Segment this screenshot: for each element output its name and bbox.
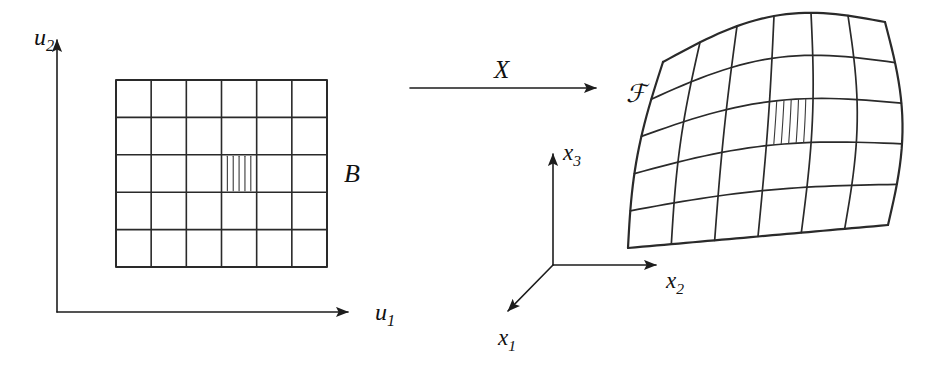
hatch-line bbox=[796, 100, 798, 143]
domain-grid-B bbox=[116, 80, 327, 267]
x1-axis-line bbox=[508, 265, 553, 311]
x2-axis-label: x2 bbox=[665, 268, 684, 297]
map-arrow-label: X bbox=[493, 56, 511, 83]
surface-v-line bbox=[801, 13, 813, 233]
diagram-svg: u2 u1 X B ℱ x1 x2 x3 bbox=[0, 0, 934, 377]
image-region-label: ℱ bbox=[626, 79, 650, 108]
hatch-line bbox=[804, 99, 806, 142]
surface-v-line bbox=[845, 16, 858, 229]
surface-v-line bbox=[671, 42, 700, 244]
surface-highlighted-cell-hatch bbox=[774, 99, 806, 144]
hatch-line bbox=[774, 101, 777, 144]
figure-canvas: u2 u1 X B ℱ x1 x2 x3 bbox=[0, 0, 934, 377]
surface-u-line bbox=[630, 184, 897, 210]
hatch-line bbox=[789, 100, 791, 143]
u1-axis-label: u1 bbox=[375, 299, 395, 330]
grid-highlighted-cell-hatch bbox=[227, 156, 250, 190]
surface-u-lines bbox=[630, 55, 902, 211]
hatch-line bbox=[781, 101, 784, 144]
image-surface-F bbox=[628, 13, 903, 248]
domain-region-label: B bbox=[344, 159, 360, 188]
surface-v-lines bbox=[671, 13, 857, 244]
surface-border bbox=[628, 13, 903, 248]
surface-v-line bbox=[758, 16, 774, 237]
surface-u-line bbox=[641, 98, 901, 136]
surface-right-edge bbox=[885, 22, 903, 225]
surface-u-line bbox=[634, 142, 902, 174]
surface-v-line bbox=[715, 26, 737, 240]
x3-axis-label: x3 bbox=[562, 140, 581, 169]
u2-axis-label: u2 bbox=[34, 24, 54, 55]
grid-vertical-lines bbox=[151, 80, 292, 267]
x1-axis-label: x1 bbox=[497, 325, 516, 354]
surface-u-line bbox=[651, 55, 895, 99]
